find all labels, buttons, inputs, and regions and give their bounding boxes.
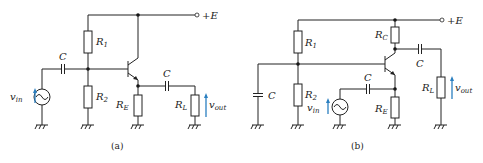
caption-b: (b) (351, 141, 364, 151)
vin-label: vin (307, 102, 320, 115)
npn-transistor-icon (385, 49, 395, 89)
c-in-label: C (59, 51, 67, 62)
r1-label: R1 (304, 37, 317, 50)
resistor-r1 (84, 31, 92, 53)
r2-label: R2 (304, 89, 318, 102)
resistor-rl (437, 77, 445, 98)
supply-label: +E (202, 10, 218, 21)
circuit-b: +E R1 C R2 RC (251, 15, 472, 151)
rl-label: RL (174, 99, 188, 112)
npn-transistor-icon (128, 15, 138, 86)
resistor-re (391, 97, 399, 118)
resistor-rl (191, 95, 199, 116)
re-label: RE (374, 103, 388, 116)
supply-label: +E (447, 15, 463, 26)
c-in-label: C (364, 72, 372, 83)
resistor-r2 (294, 84, 302, 106)
re-label: RE (115, 99, 129, 112)
vout-label: vout (209, 99, 226, 112)
vin-label: vin (10, 91, 23, 104)
r1-label: R1 (95, 36, 108, 49)
circuit-figure: +E R1 C vin R2 (0, 0, 483, 163)
rc-label: RC (374, 29, 389, 42)
caption-a: (a) (111, 141, 123, 151)
circuit-a: +E R1 C vin R2 (10, 10, 226, 151)
resistor-rc (391, 27, 399, 43)
supply-terminal (440, 18, 444, 22)
resistor-re (134, 95, 142, 116)
c-out-label: C (163, 68, 171, 79)
supply-terminal (195, 13, 199, 17)
c-base-label: C (268, 90, 276, 101)
rl-label: RL (421, 82, 435, 95)
vout-label: vout (455, 82, 472, 95)
c-out-label: C (416, 58, 424, 69)
r2-label: R2 (95, 91, 109, 104)
resistor-r2 (84, 86, 92, 108)
resistor-r1 (294, 31, 302, 53)
